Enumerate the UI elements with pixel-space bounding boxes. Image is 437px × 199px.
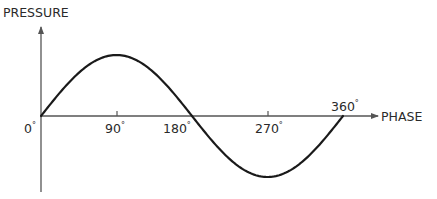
tick-label-180: 180° [163,121,191,136]
sine-wave-diagram: PRESSURE PHASE 0° 90° 180° 270° 360° [0,0,437,199]
tick-label-0: 0° [24,121,36,136]
y-axis-label: PRESSURE [3,5,69,20]
tick-label-90: 90° [105,121,125,136]
x-axis-label: PHASE [381,109,422,124]
tick-label-360: 360° [331,99,359,114]
tick-label-270: 270° [255,121,283,136]
